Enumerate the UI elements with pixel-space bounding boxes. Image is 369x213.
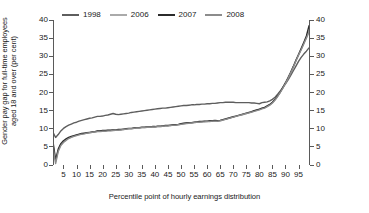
x-tick — [129, 165, 130, 169]
y-tick-label: 10 — [26, 125, 48, 133]
legend-swatch-2007 — [158, 14, 175, 16]
left-axis-line — [53, 20, 54, 165]
y-tick — [310, 128, 314, 129]
x-tick — [116, 165, 117, 169]
x-tick — [194, 165, 195, 169]
x-tick — [272, 165, 273, 169]
x-tick — [155, 165, 156, 169]
y-tick — [49, 56, 53, 57]
x-tick — [77, 165, 78, 169]
legend-label-2008: 2008 — [226, 11, 244, 19]
y-tick-label: 25 — [316, 70, 338, 78]
y-tick — [49, 146, 53, 147]
y-tick-label: 30 — [26, 52, 48, 60]
x-tick — [63, 165, 64, 169]
y-tick — [310, 74, 314, 75]
y-tick-label: 40 — [316, 16, 338, 24]
legend-item-2008[interactable]: 2008 — [205, 11, 244, 19]
x-tick — [285, 165, 286, 169]
x-tick — [246, 165, 247, 169]
x-tick-label: 95 — [287, 171, 311, 179]
series-line-2007 — [53, 26, 309, 160]
series-line-2008 — [53, 32, 309, 163]
x-tick — [90, 165, 91, 169]
y-tick-label: 35 — [26, 34, 48, 42]
legend-item-2007[interactable]: 2007 — [158, 11, 197, 19]
y-tick-label: 25 — [26, 70, 48, 78]
y-tick — [49, 110, 53, 111]
x-tick — [299, 165, 300, 169]
y-tick — [49, 165, 53, 166]
legend-swatch-2006 — [110, 14, 127, 16]
legend-item-2006[interactable]: 2006 — [110, 11, 149, 19]
series-lines — [53, 20, 310, 165]
legend-swatch-2008 — [205, 14, 222, 16]
y-tick — [310, 38, 314, 39]
y-tick-label: 15 — [26, 107, 48, 115]
x-tick — [220, 165, 221, 169]
y-tick-label: 10 — [316, 125, 338, 133]
x-tick — [233, 165, 234, 169]
y-axis-title-line1: Gender pay gap for full-time employees — [0, 0, 9, 171]
y-tick-label: 5 — [316, 143, 338, 151]
legend-item-1998[interactable]: 1998 — [62, 11, 101, 19]
y-tick-label: 35 — [316, 34, 338, 42]
y-tick-label: 20 — [26, 89, 48, 97]
x-tick — [103, 165, 104, 169]
x-tick — [168, 165, 169, 169]
x-tick — [142, 165, 143, 169]
y-tick — [310, 146, 314, 147]
series-line-2006 — [53, 31, 309, 162]
y-tick — [310, 92, 314, 93]
x-tick — [207, 165, 208, 169]
chart-figure: Gender pay gap for full-time employees a… — [0, 0, 369, 213]
y-tick — [49, 92, 53, 93]
legend-label-2006: 2006 — [131, 11, 149, 19]
y-axis-title: Gender pay gap for full-time employees a… — [0, 0, 26, 171]
x-tick — [181, 165, 182, 169]
y-tick — [49, 20, 53, 21]
y-tick — [310, 20, 314, 21]
y-tick-label: 40 — [26, 16, 48, 24]
y-tick — [310, 56, 314, 57]
y-tick-label: 0 — [316, 161, 338, 169]
plot-area: 0510152025303540 0510152025303540 510152… — [53, 20, 310, 165]
y-tick-label: 5 — [26, 143, 48, 151]
x-axis-title: Percentile point of hourly earnings dist… — [0, 192, 369, 201]
legend-label-1998: 1998 — [83, 11, 101, 19]
y-tick-label: 20 — [316, 89, 338, 97]
y-tick-label: 15 — [316, 107, 338, 115]
y-tick — [49, 128, 53, 129]
y-tick — [310, 165, 314, 166]
legend-label-2007: 2007 — [179, 11, 197, 19]
y-tick-label: 0 — [26, 161, 48, 169]
y-tick — [49, 38, 53, 39]
y-tick — [310, 110, 314, 111]
legend-swatch-1998 — [62, 14, 79, 16]
y-tick — [49, 74, 53, 75]
y-tick-label: 30 — [316, 52, 338, 60]
x-tick — [259, 165, 260, 169]
y-axis-title-line2: aged 18 and over (per cent) — [9, 0, 18, 171]
